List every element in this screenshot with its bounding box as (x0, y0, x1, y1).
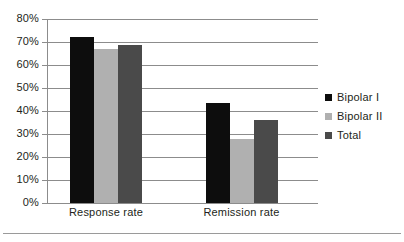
bar (70, 37, 94, 203)
bar (230, 139, 254, 203)
x-axis-tick-label: Remission rate (182, 206, 302, 218)
chart-legend: Bipolar IBipolar IITotal (325, 88, 404, 145)
legend-label: Total (337, 129, 361, 141)
footer-divider (3, 233, 401, 234)
legend-item: Bipolar I (325, 88, 404, 106)
bar (94, 49, 118, 203)
x-axis-tick-label: Response rate (46, 206, 166, 218)
legend-swatch-icon (325, 132, 332, 139)
legend-item: Total (325, 126, 404, 144)
legend-label: Bipolar I (337, 91, 379, 103)
bar (118, 45, 142, 203)
legend-swatch-icon (325, 94, 332, 101)
legend-item: Bipolar II (325, 107, 404, 125)
legend-label: Bipolar II (337, 110, 382, 122)
bar-chart-figure: 0%10%20%30%40%50%60%70%80% Response rate… (0, 0, 404, 242)
bar (254, 120, 278, 203)
bar (206, 103, 230, 203)
legend-swatch-icon (325, 113, 332, 120)
